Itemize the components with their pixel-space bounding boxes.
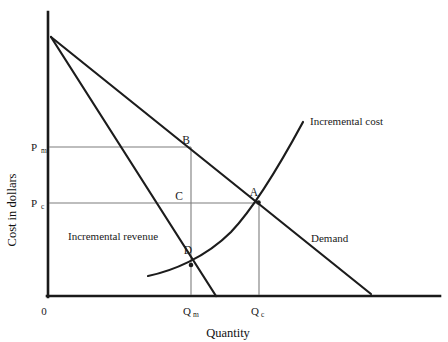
label-demand: Demand [311,232,349,244]
chart-svg: B C A D Incremental cost Incremental rev… [0,0,448,342]
point-d-marker [189,263,194,268]
x-axis-title: Quantity [206,326,250,340]
x-tick-qm-sub: m [193,310,199,319]
incremental-cost-curve [148,122,303,276]
y-axis-title: Cost in dollars [5,173,19,246]
y-tick-pm: P m [31,141,47,155]
x-tick-qc: Q c [251,305,265,319]
y-tick-pm-base: P [31,141,37,153]
point-label-a: A [250,186,259,198]
demand-curve [51,37,371,294]
point-label-b: B [182,134,190,146]
x-tick-qc-base: Q [251,305,259,317]
point-a-marker [256,200,261,205]
origin-label: 0 [41,305,47,317]
x-tick-qc-sub: c [261,310,265,319]
point-label-d: D [184,244,192,256]
economics-figure: B C A D Incremental cost Incremental rev… [0,0,448,342]
label-incremental-revenue: Incremental revenue [68,230,158,242]
x-tick-qm-base: Q [183,305,191,317]
y-tick-pm-sub: m [41,146,47,155]
point-label-c: C [175,190,183,202]
x-tick-qm: Q m [183,305,199,319]
y-tick-pc-base: P [31,197,37,209]
y-tick-pc: P c [31,197,45,211]
label-incremental-cost: Incremental cost [310,115,383,127]
y-tick-pc-sub: c [41,202,45,211]
